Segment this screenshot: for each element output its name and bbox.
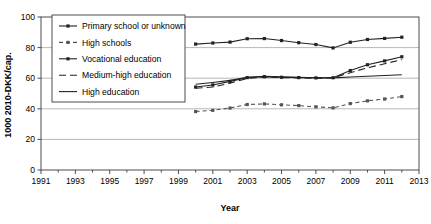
x-tick-label: 2005 [272, 176, 291, 186]
data-point [297, 41, 300, 44]
data-point [314, 43, 317, 46]
x-tick-label: 2007 [306, 176, 325, 186]
data-point [331, 106, 334, 109]
data-point [314, 105, 317, 108]
data-point [366, 99, 369, 102]
x-tick-label: 1995 [100, 176, 119, 186]
data-point [211, 41, 214, 44]
x-tick-label: 2013 [410, 176, 429, 186]
data-point [246, 37, 249, 40]
y-tick-labels: 020406080100 [21, 12, 35, 175]
x-tick-label: 1991 [32, 176, 51, 186]
y-tick-label: 40 [26, 104, 36, 114]
data-point [400, 95, 403, 98]
data-point [211, 109, 214, 112]
data-point [211, 83, 214, 86]
y-axis-title: 1000 2010-DKK/cap. [3, 52, 13, 138]
y-tick-label: 60 [26, 73, 36, 83]
x-tick-label: 1993 [66, 176, 85, 186]
x-axis-title: Year [220, 203, 240, 213]
data-point [366, 38, 369, 41]
data-point [383, 97, 386, 100]
data-point [400, 36, 403, 39]
legend-label: Vocational education [82, 54, 162, 64]
data-point [246, 103, 249, 106]
y-tick-label: 100 [21, 12, 35, 22]
y-tick-label: 80 [26, 43, 36, 53]
data-point [228, 106, 231, 109]
x-tick-label: 2001 [203, 176, 222, 186]
x-tick-label: 2011 [375, 176, 394, 186]
legend-label: Medium-high education [82, 70, 172, 80]
data-point [400, 55, 403, 58]
data-point [349, 102, 352, 105]
data-point [280, 103, 283, 106]
legend-label: High education [82, 87, 140, 97]
legend-swatch-marker [66, 24, 69, 27]
data-series-layer [194, 36, 403, 114]
line-chart: 020406080100 199119931995199719992001200… [0, 0, 431, 224]
series-2 [194, 55, 403, 88]
data-point [349, 69, 352, 72]
data-point [349, 41, 352, 44]
x-tick-label: 2009 [341, 176, 360, 186]
series-1 [194, 95, 403, 113]
legend-swatch-marker [66, 57, 69, 60]
x-tick-label: 2003 [238, 176, 257, 186]
legend-label: High schools [82, 38, 131, 48]
data-point [383, 59, 386, 62]
y-tick-label: 20 [26, 134, 36, 144]
data-point [228, 40, 231, 43]
chart-container: 020406080100 199119931995199719992001200… [0, 0, 431, 224]
x-tick-label: 1997 [135, 176, 154, 186]
series-line [196, 57, 402, 87]
data-point [194, 110, 197, 113]
data-point [383, 37, 386, 40]
legend-label: Primary school or unknown [82, 21, 186, 31]
data-point [331, 46, 334, 49]
legend-swatch-marker [66, 41, 69, 44]
data-point [297, 104, 300, 107]
data-point [194, 42, 197, 45]
data-point [280, 39, 283, 42]
x-tick-label: 1999 [169, 176, 188, 186]
data-point [263, 102, 266, 105]
data-point [366, 63, 369, 66]
x-tick-labels: 1991199319951997199920012003200520072009… [32, 176, 429, 186]
data-point [263, 37, 266, 40]
y-tick-label: 0 [30, 165, 35, 175]
chart-legend: Primary school or unknownHigh schoolsVoc… [52, 15, 186, 102]
